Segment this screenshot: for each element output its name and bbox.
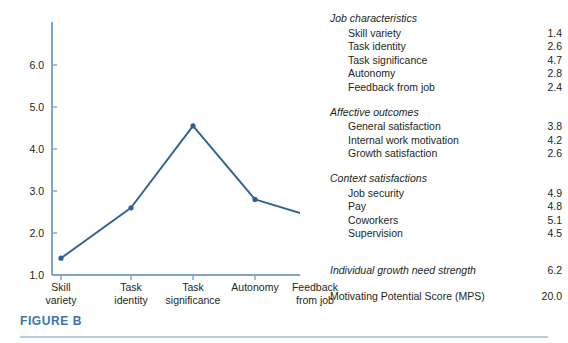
y-tick-label-6: 6.0 (29, 59, 44, 71)
score-label: Task significance (348, 54, 427, 68)
data-point (128, 205, 133, 210)
panel-spacer (330, 278, 562, 290)
score-value: 2.8 (538, 67, 562, 81)
score-value: 2.6 (538, 40, 562, 54)
score-value: 20.0 (542, 290, 562, 304)
y-tick-label-1: 1.0 (29, 269, 44, 281)
score-row: Skill variety 1.4 (330, 27, 562, 41)
score-row: Task identity 2.6 (330, 40, 562, 54)
score-row: Internal work motivation 4.2 (330, 134, 562, 148)
score-row: Coworkers 5.1 (330, 214, 562, 228)
mps-row: Motivating Potential Score (MPS) 20.0 (330, 290, 562, 304)
score-value: 4.7 (538, 54, 562, 68)
score-row: Supervision 4.5 (330, 227, 562, 241)
series-line (61, 126, 300, 258)
figure-caption: FIGURE B (20, 314, 82, 328)
line-chart: 1.0 2.0 3.0 4.0 5.0 6.0 Skill variety Ta… (0, 0, 300, 312)
score-value: 4.8 (538, 200, 562, 214)
score-row: Job security 4.9 (330, 187, 562, 201)
score-label: Skill variety (348, 27, 401, 41)
score-label: Feedback from job (348, 81, 435, 95)
score-label: Job security (348, 187, 404, 201)
group-title: Context satisfactions (330, 172, 562, 186)
score-row: Growth satisfaction 2.6 (330, 147, 562, 161)
score-value: 3.8 (538, 120, 562, 134)
score-value: 4.9 (538, 187, 562, 201)
y-tick-label-5: 5.0 (29, 101, 44, 113)
x-category-line-2: significance (150, 294, 236, 307)
group-affective-outcomes: Affective outcomes General satisfaction … (330, 106, 562, 161)
data-point (58, 256, 63, 261)
chart-canvas: 1.0 2.0 3.0 4.0 5.0 6.0 (0, 0, 300, 312)
figure-b-page: 1.0 2.0 3.0 4.0 5.0 6.0 Skill variety Ta… (0, 0, 568, 343)
data-point (252, 197, 257, 202)
group-title: Affective outcomes (330, 106, 562, 120)
group-job-characteristics: Job characteristics Skill variety 1.4 Ta… (330, 12, 562, 95)
score-label: Coworkers (348, 214, 398, 228)
score-label: Motivating Potential Score (MPS) (330, 290, 485, 304)
group-title: Job characteristics (330, 12, 562, 26)
y-tick-label-3: 3.0 (29, 185, 44, 197)
score-label: Growth satisfaction (348, 147, 437, 161)
score-value: 5.1 (538, 214, 562, 228)
score-label: Autonomy (348, 67, 395, 81)
footer-divider (20, 336, 548, 338)
score-summary-panel: Job characteristics Skill variety 1.4 Ta… (330, 12, 562, 303)
score-label: Internal work motivation (348, 134, 459, 148)
panel-spacer (330, 252, 562, 264)
score-value: 4.5 (538, 227, 562, 241)
score-row: Task significance 4.7 (330, 54, 562, 68)
score-label: Supervision (348, 227, 403, 241)
score-row: Autonomy 2.8 (330, 67, 562, 81)
score-row: General satisfaction 3.8 (330, 120, 562, 134)
score-row: Feedback from job 2.4 (330, 81, 562, 95)
data-point (190, 123, 195, 128)
growth-need-strength-row: Individual growth need strength 6.2 (330, 264, 562, 278)
score-value: 2.4 (538, 81, 562, 95)
y-tick-label-2: 2.0 (29, 227, 44, 239)
score-label: Pay (348, 200, 366, 214)
score-value: 2.6 (538, 147, 562, 161)
score-row: Pay 4.8 (330, 200, 562, 214)
score-value: 4.2 (538, 134, 562, 148)
score-label: Task identity (348, 40, 406, 54)
score-value: 1.4 (538, 27, 562, 41)
score-label: General satisfaction (348, 120, 441, 134)
score-label: Individual growth need strength (330, 264, 476, 278)
y-tick-label-4: 4.0 (29, 143, 44, 155)
score-value: 6.2 (547, 264, 562, 278)
group-context-satisfactions: Context satisfactions Job security 4.9 P… (330, 172, 562, 241)
